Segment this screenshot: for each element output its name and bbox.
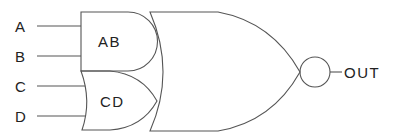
logic-diagram: A B C D AB CD OUT — [0, 0, 394, 139]
input-label-d: D — [15, 108, 26, 125]
output-label: OUT — [344, 64, 380, 81]
input-label-a: A — [15, 18, 25, 35]
input-label-c: C — [15, 78, 26, 95]
inversion-bubble — [300, 57, 330, 87]
or-gate-label: CD — [100, 93, 125, 110]
and-gate-label: AB — [98, 33, 121, 50]
input-label-b: B — [15, 48, 25, 65]
nor-gate — [150, 12, 300, 131]
